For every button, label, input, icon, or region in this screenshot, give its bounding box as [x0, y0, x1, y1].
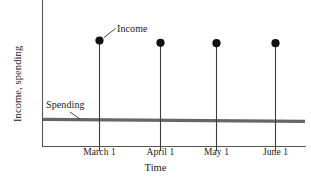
income-marker-march — [95, 36, 103, 44]
spending-leader-line — [70, 112, 80, 119]
x-tick-label-may: May 1 — [204, 148, 229, 158]
chart-figure: Income, spending Time March 1 April 1 Ma… — [0, 0, 311, 179]
x-tick-label-june: June 1 — [263, 148, 288, 158]
spending-series-label: Spending — [46, 100, 85, 110]
income-marker-june — [271, 39, 279, 47]
income-marker-may — [212, 39, 220, 47]
spending-line — [43, 119, 305, 121]
x-tick-label-april: April 1 — [147, 148, 175, 158]
y-axis-title: Income, spending — [13, 46, 24, 122]
income-leader-line — [104, 29, 116, 38]
x-axis-title: Time — [0, 163, 311, 174]
x-tick-label-march: March 1 — [83, 148, 116, 158]
income-marker-april — [156, 39, 164, 47]
income-series-label: Income — [117, 24, 148, 34]
